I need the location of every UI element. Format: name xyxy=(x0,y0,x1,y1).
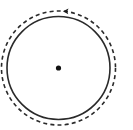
circular-motion-diagram xyxy=(0,0,133,130)
center-point-icon xyxy=(56,65,61,70)
